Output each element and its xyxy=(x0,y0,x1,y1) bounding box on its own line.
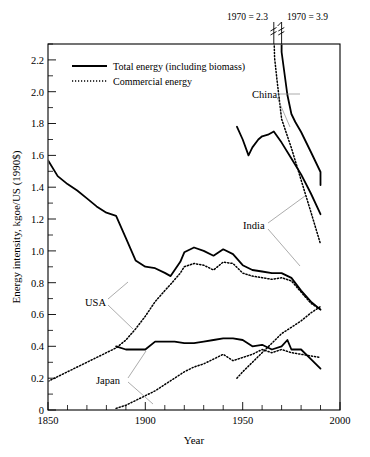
y-tick-label: 1.8 xyxy=(31,118,44,129)
series-label-china: China xyxy=(252,89,277,100)
plot-frame xyxy=(48,44,340,410)
leader-india xyxy=(268,196,305,266)
y-tick-label: 1.6 xyxy=(31,150,44,161)
y-axis-ticks xyxy=(48,44,56,410)
series-japan-total xyxy=(116,338,320,368)
y-tick-label: 0.4 xyxy=(31,341,45,352)
chart-svg: 0 0.2 0.4 0.6 0.8 1.0 1.2 1.4 1.6 1.8 2.… xyxy=(0,0,370,457)
energy-intensity-chart: 0 0.2 0.4 0.6 0.8 1.0 1.2 1.4 1.6 1.8 2.… xyxy=(0,0,370,457)
y-tick-label: 0.2 xyxy=(31,373,44,384)
series-usa-commercial xyxy=(48,262,321,381)
series-callouts: USA Japan India China xyxy=(85,89,305,404)
y-tick-label: 1.2 xyxy=(31,214,44,225)
x-axis-title: Year xyxy=(184,434,205,446)
x-tick-label: 1950 xyxy=(232,415,253,426)
leader-japan xyxy=(128,351,153,404)
series-india-commercial xyxy=(237,307,321,379)
legend: Total energy (including biomass) Commerc… xyxy=(72,61,245,87)
x-tick-label: 1900 xyxy=(135,415,156,426)
series-label-india: India xyxy=(243,220,265,231)
annotation-china-commercial: 1970 = 2.3 xyxy=(227,12,268,22)
x-axis-tick-labels: 1850 1900 1950 2000 xyxy=(38,415,351,426)
series-label-japan: Japan xyxy=(96,375,121,386)
series-label-usa: USA xyxy=(85,297,106,308)
y-tick-label: 0.6 xyxy=(31,309,44,320)
legend-label-commercial-energy: Commercial energy xyxy=(113,76,192,87)
series-china-total xyxy=(282,30,321,185)
x-axis-ticks xyxy=(48,402,340,410)
axis-break-marks xyxy=(271,22,285,44)
y-axis-title: Energy intensity, kgoe/US (1990$) xyxy=(10,150,23,303)
y-axis-tick-labels: 0 0.2 0.4 0.6 0.8 1.0 1.2 1.4 1.6 1.8 2.… xyxy=(31,55,45,416)
y-tick-label: 1.4 xyxy=(31,182,45,193)
y-tick-label: 1.0 xyxy=(31,246,44,257)
leader-usa xyxy=(108,282,133,329)
y-tick-label: 2.0 xyxy=(31,87,44,98)
y-tick-label: 2.2 xyxy=(31,55,44,66)
series-japan-commercial xyxy=(116,350,320,409)
legend-label-total-energy: Total energy (including biomass) xyxy=(113,61,245,73)
series-usa-total xyxy=(48,160,321,309)
series-china-commercial xyxy=(274,30,321,244)
x-tick-label: 2000 xyxy=(330,415,351,426)
annotation-china-total: 1970 = 3.9 xyxy=(287,12,328,22)
y-tick-label: 0.8 xyxy=(31,278,44,289)
x-tick-label: 1850 xyxy=(38,415,59,426)
